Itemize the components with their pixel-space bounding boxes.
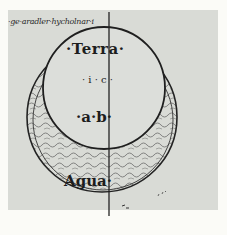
earth-water-diagram <box>0 0 227 235</box>
header-inscription: ·ge·aradler·hycholnar·i <box>8 17 94 26</box>
label-agua: Agua· <box>64 172 112 190</box>
label-i-c: · i · c · <box>82 74 113 85</box>
label-a-b: ·a·b· <box>76 108 112 126</box>
label-terra: ·Terra· <box>66 40 124 58</box>
